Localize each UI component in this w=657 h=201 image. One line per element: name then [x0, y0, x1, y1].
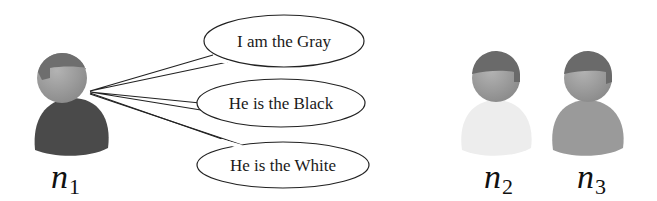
- statement-text: He is the Black: [229, 94, 334, 113]
- label-n2: n2: [484, 160, 513, 198]
- label-n1: n1: [51, 160, 80, 198]
- label-n3: n3: [577, 160, 606, 198]
- diagram-canvas: I am the Gray He is the Black He is the …: [0, 0, 657, 201]
- speech-bubble-2: He is the Black: [197, 79, 365, 127]
- speech-bubble-1: I am the Gray: [204, 15, 364, 67]
- statement-text: I am the Gray: [237, 32, 331, 51]
- person-n2-icon: [461, 51, 531, 156]
- speech-bubble-3: He is the White: [197, 142, 369, 188]
- person-n3-icon: [552, 51, 623, 156]
- person-n1-icon: [35, 53, 109, 156]
- statement-text: He is the White: [230, 156, 336, 175]
